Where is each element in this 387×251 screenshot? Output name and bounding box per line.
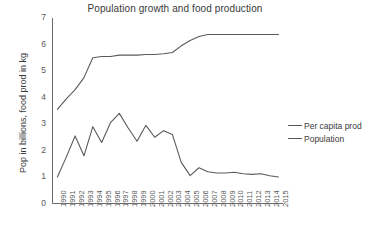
- chart-legend: Per capita prod Population: [288, 119, 362, 145]
- series-lines: [57, 34, 278, 177]
- chart-container: Population growth and food production Po…: [0, 0, 387, 251]
- legend-label: Per capita prod: [304, 121, 362, 131]
- legend-item-population[interactable]: Population: [288, 132, 362, 145]
- legend-swatch-icon: [288, 125, 302, 126]
- legend-swatch-icon: [288, 138, 302, 139]
- series-line: [57, 34, 278, 109]
- legend-item-per-capita-prod[interactable]: Per capita prod: [288, 119, 362, 132]
- legend-label: Population: [304, 134, 344, 144]
- series-line: [57, 113, 278, 177]
- axis-lines: [53, 18, 284, 204]
